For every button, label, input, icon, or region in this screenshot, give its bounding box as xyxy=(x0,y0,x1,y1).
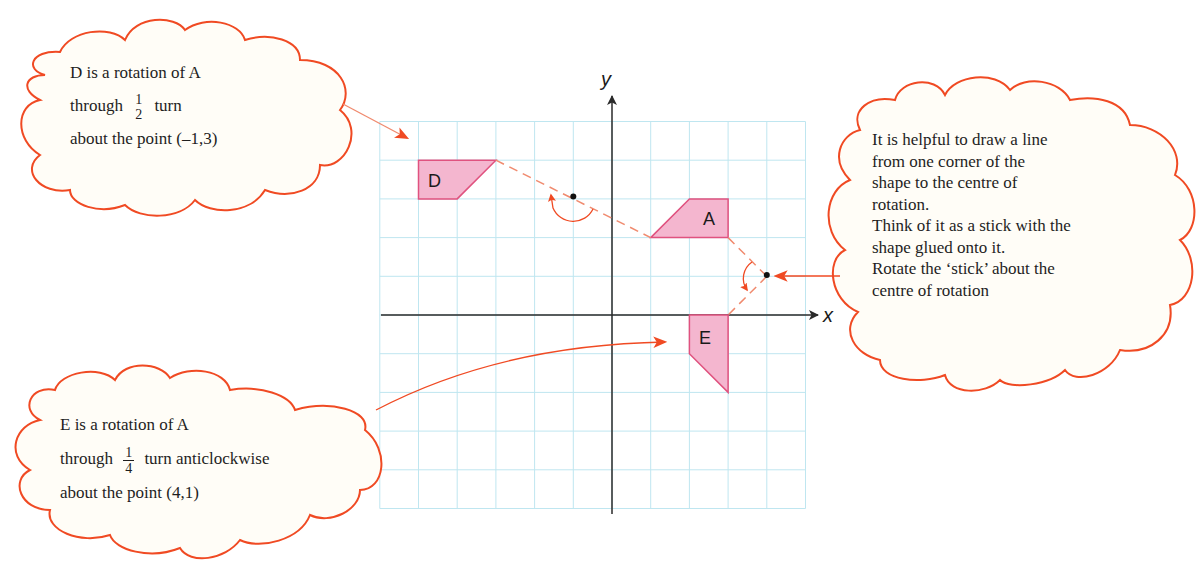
arrow-cloud-e-to-shape-e xyxy=(376,342,665,410)
cloud-d-through: through xyxy=(70,96,123,115)
shape-d-label: D xyxy=(428,171,441,191)
tip-line-1: It is helpful to draw a line xyxy=(872,129,1071,151)
tip-line-7: Rotate the ‘stick’ about the xyxy=(872,258,1071,280)
shape-d: D xyxy=(419,160,496,199)
cloud-d-text: D is a rotation of A through 1 2 turn ab… xyxy=(70,58,217,154)
stick-line-centre-to-e xyxy=(728,276,767,315)
rotation-diagram: x y D A E D is a rotation of A through 1… xyxy=(0,0,1201,576)
centre-of-rotation-d xyxy=(570,194,576,200)
cloud-e-line-2: through 1 4 turn anticlockwise xyxy=(60,440,270,478)
fraction-one-quarter: 1 4 xyxy=(123,445,134,476)
cloud-d-line-2: through 1 2 turn xyxy=(70,88,217,124)
stick-line-a-to-centre xyxy=(728,238,767,277)
fraction-numerator: 1 xyxy=(133,92,144,107)
shape-a: A xyxy=(651,199,728,238)
tip-line-2: from one corner of the xyxy=(872,151,1071,173)
fraction-numerator: 1 xyxy=(123,445,134,461)
tip-line-3: shape to the centre of xyxy=(872,172,1071,194)
tip-line-6: shape glued onto it. xyxy=(872,237,1071,259)
cloud-d-line-3: about the point (–1,3) xyxy=(70,124,217,154)
y-axis-label: y xyxy=(599,68,612,90)
shape-e-label: E xyxy=(699,328,711,348)
shape-e: E xyxy=(689,315,728,392)
cloud-d-turn: turn xyxy=(154,96,181,115)
fraction-denominator: 2 xyxy=(133,107,144,122)
axes: x y xyxy=(381,68,834,514)
fraction-denominator: 4 xyxy=(123,461,134,476)
x-axis-label: x xyxy=(822,304,834,326)
cloud-e-line-3: about the point (4,1) xyxy=(60,478,270,508)
cloud-e-line-1: E is a rotation of A xyxy=(60,410,270,440)
fraction-one-half: 1 2 xyxy=(133,92,144,122)
cloud-d-line-1: D is a rotation of A xyxy=(70,58,217,88)
centre-of-rotation-e xyxy=(764,272,770,278)
cloud-tip-text: It is helpful to draw a line from one co… xyxy=(872,129,1071,301)
cloud-e-text: E is a rotation of A through 1 4 turn an… xyxy=(60,410,270,508)
tip-line-5: Think of it as a stick with the xyxy=(872,215,1071,237)
tip-line-8: centre of rotation xyxy=(872,280,1071,302)
tip-line-4: rotation. xyxy=(872,194,1071,216)
cloud-e-turn-anticlockwise: turn anticlockwise xyxy=(144,449,269,468)
cloud-e-through: through xyxy=(60,449,113,468)
shape-a-label: A xyxy=(703,209,715,229)
